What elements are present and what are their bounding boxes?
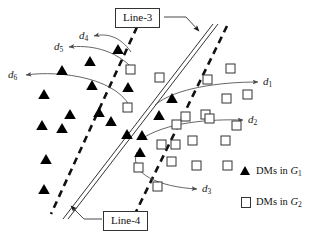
legend-g1-group: G [290, 165, 298, 176]
legend-g1-sub: 1 [298, 169, 302, 178]
annotation-d2-var: d [248, 113, 254, 125]
callout-line-4[interactable]: Line-4 [103, 211, 148, 231]
figure-canvas: Line-3 Line-4 d4 d5 d6 d1 d2 d3 DMs in G… [0, 0, 327, 245]
legend-g1-prefix: DMs in [256, 165, 290, 176]
annotation-d3-var: d [202, 182, 208, 194]
annotation-d4: d4 [79, 30, 88, 41]
legend-g2-group: G [290, 196, 298, 207]
annotation-d4-var: d [79, 29, 85, 41]
annotation-d2: d2 [248, 114, 257, 125]
callout-line-4-label: Line-4 [111, 214, 140, 226]
legend-g2-prefix: DMs in [256, 196, 290, 207]
line4-leader [71, 206, 102, 219]
annotation-d6-var: d [8, 68, 14, 80]
legend-g2-sub: 2 [298, 200, 302, 209]
line3-leader [164, 17, 199, 31]
annotation-d3: d3 [202, 183, 211, 194]
triangle-filled-icon [240, 165, 251, 176]
d3-arrow [135, 152, 197, 189]
callout-line-3[interactable]: Line-3 [115, 8, 160, 28]
annotation-d1-sub: 1 [269, 80, 273, 89]
annotation-d3-sub: 3 [208, 187, 212, 196]
legend-item-g2: DMs in G2 [240, 196, 302, 207]
diagram-svg [0, 0, 327, 245]
legend-item-g1-label: DMs in G1 [256, 165, 302, 176]
callout-line-3-label: Line-3 [123, 11, 152, 23]
annotation-d4-sub: 4 [85, 34, 89, 43]
annotation-d6-sub: 6 [14, 73, 18, 82]
legend-item-g1: DMs in G1 [240, 165, 302, 176]
annotation-d5-var: d [54, 40, 60, 52]
annotation-d2-sub: 2 [254, 118, 258, 127]
corridor-separator [63, 24, 218, 219]
annotation-d6: d6 [8, 69, 17, 80]
square-open-icon [240, 196, 251, 207]
annotation-d1: d1 [263, 76, 272, 87]
legend-item-g2-label: DMs in G2 [256, 196, 302, 207]
annotation-d5: d5 [54, 41, 63, 52]
annotation-d1-var: d [263, 75, 269, 87]
annotation-d5-sub: 5 [60, 45, 64, 54]
